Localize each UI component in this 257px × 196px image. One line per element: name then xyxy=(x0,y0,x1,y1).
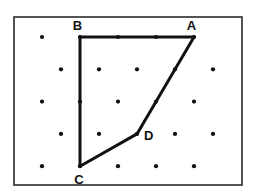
diagram-frame xyxy=(14,17,242,185)
grid-dot xyxy=(97,67,101,71)
grid-dot xyxy=(192,100,196,104)
grid-dot xyxy=(59,132,63,136)
edge-da xyxy=(137,37,194,134)
grid-dot xyxy=(192,164,196,168)
grid-dot xyxy=(173,132,177,136)
vertex-label-d: D xyxy=(144,128,153,143)
dot-grid-diagram: ABCD xyxy=(0,0,257,196)
grid-dot xyxy=(116,100,120,104)
vertex-labels: ABCD xyxy=(73,18,197,187)
vertex-label-a: A xyxy=(187,18,197,33)
grid-dot xyxy=(154,164,158,168)
grid-dot xyxy=(97,132,101,136)
edge-cd xyxy=(80,134,137,166)
grid-dot xyxy=(40,164,44,168)
grid-dot xyxy=(211,67,215,71)
grid-dots xyxy=(40,35,215,168)
grid-dot xyxy=(211,132,215,136)
vertex-label-c: C xyxy=(74,172,84,187)
grid-dot xyxy=(116,164,120,168)
grid-dot xyxy=(40,100,44,104)
grid-dot xyxy=(135,67,139,71)
vertex-label-b: B xyxy=(73,18,82,33)
grid-dot xyxy=(40,35,44,39)
grid-dot xyxy=(59,67,63,71)
polygon-edges xyxy=(80,37,194,166)
